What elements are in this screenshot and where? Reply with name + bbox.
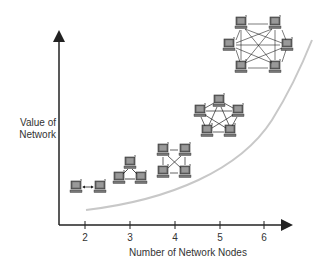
x-tick-6: 6 [259,232,269,243]
network-3-nodes-icon [113,155,147,184]
y-axis-label-line2: Network [18,129,56,141]
x-axis-label: Number of Network Nodes [118,247,258,259]
network-5-nodes-icon [194,93,244,137]
network-6-nodes-icon [223,15,293,73]
y-axis-label-line1: Value of [18,117,56,129]
x-axis [59,221,290,229]
x-tick-4: 4 [170,232,180,243]
network-2-nodes-icon [70,179,106,193]
x-tick-5: 5 [215,232,225,243]
y-axis-label: Value of Network [18,117,56,141]
x-tick-2: 2 [80,232,90,243]
network-4-nodes-icon [157,142,191,178]
x-tick-3: 3 [125,232,135,243]
